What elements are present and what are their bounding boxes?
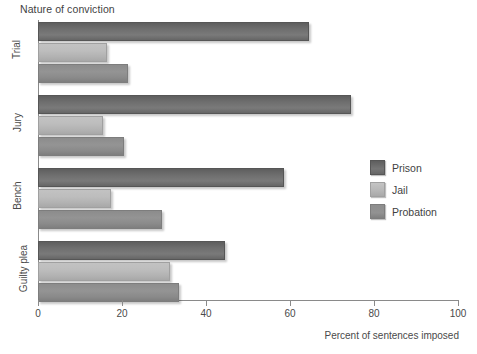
y-axis-label-trial: Trial: [0, 44, 34, 55]
legend-label: Jail: [392, 184, 408, 196]
bar-prison-jury: [38, 95, 351, 114]
bar-jail-bench: [38, 189, 111, 208]
x-tick-label: 40: [200, 308, 211, 319]
x-tick-label: 20: [116, 308, 127, 319]
legend-label: Prison: [392, 162, 422, 174]
y-axis-label-bench: Bench: [0, 190, 34, 201]
chart-legend: PrisonJailProbation: [370, 158, 437, 224]
x-tick: [206, 300, 207, 306]
x-tick: [458, 300, 459, 306]
legend-item-probation: Probation: [370, 202, 437, 221]
bar-prison-trial: [38, 22, 309, 41]
chart-title: Nature of conviction: [20, 3, 115, 15]
x-tick: [122, 300, 123, 306]
x-tick: [38, 300, 39, 306]
bar-jail-guilty-plea: [38, 262, 170, 281]
legend-item-prison: Prison: [370, 158, 437, 177]
bar-probation-jury: [38, 137, 124, 156]
x-tick: [374, 300, 375, 306]
legend-swatch-jail: [370, 182, 385, 197]
bar-probation-trial: [38, 64, 128, 83]
x-tick-label: 60: [284, 308, 295, 319]
legend-swatch-prison: [370, 160, 385, 175]
bar-group: [38, 95, 458, 154]
bar-jail-trial: [38, 43, 107, 62]
bar-jail-jury: [38, 116, 103, 135]
bar-chart: Nature of conviction 020406080100 Percen…: [0, 0, 477, 354]
legend-label: Probation: [392, 206, 437, 218]
x-tick-label: 80: [368, 308, 379, 319]
y-axis-label-jury: Jury: [0, 117, 34, 128]
bar-group: [38, 22, 458, 81]
x-axis-label: Percent of sentences imposed: [324, 330, 459, 341]
legend-item-jail: Jail: [370, 180, 437, 199]
x-tick-label: 0: [35, 308, 41, 319]
bar-probation-guilty-plea: [38, 283, 179, 302]
x-tick: [290, 300, 291, 306]
bar-prison-guilty-plea: [38, 241, 225, 260]
bar-probation-bench: [38, 210, 162, 229]
legend-swatch-probation: [370, 204, 385, 219]
bar-group: [38, 241, 458, 300]
y-axis-label-guilty-plea: Guilty plea: [0, 263, 34, 274]
x-tick-label: 100: [450, 308, 467, 319]
bar-prison-bench: [38, 168, 284, 187]
